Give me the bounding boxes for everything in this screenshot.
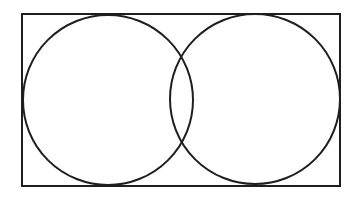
universe-rectangle [22,14,340,186]
venn-diagram [0,0,363,199]
right-set-circle [170,14,340,184]
left-set-circle [23,15,193,185]
diagram-svg [0,0,363,199]
